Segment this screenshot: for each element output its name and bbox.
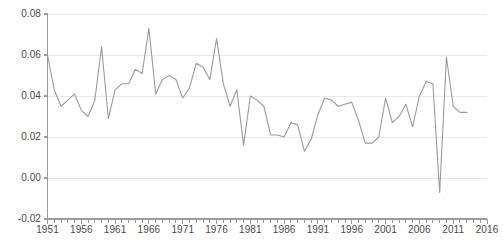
y-tick-label: 0.02 [1, 131, 41, 142]
y-tick-label: 0.08 [1, 8, 41, 19]
y-tick-label: -0.02 [1, 213, 41, 224]
data-line-1 [48, 28, 467, 192]
x-tick-label: 2016 [467, 224, 503, 235]
y-tick-label: 0.06 [1, 49, 41, 60]
y-tick-label: 0.00 [1, 172, 41, 183]
y-tick-label: 0.04 [1, 90, 41, 101]
